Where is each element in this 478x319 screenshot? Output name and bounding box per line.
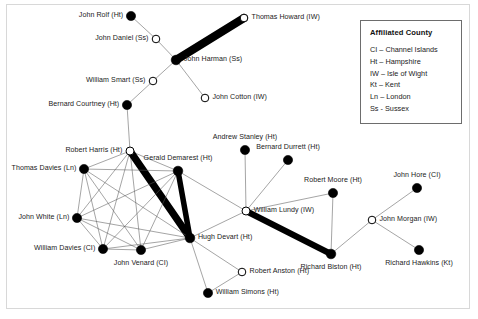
graph-node[interactable] [98, 244, 107, 253]
node-label: Thomas Davies (Ln) [12, 165, 77, 172]
graph-edge [84, 169, 178, 171]
graph-edge [176, 60, 205, 98]
node-label: Bernard Durrett (Ht) [256, 144, 320, 151]
graph-edge [84, 169, 103, 249]
graph-node[interactable] [368, 216, 376, 224]
graph-node[interactable] [126, 11, 135, 20]
graph-edge [176, 18, 244, 60]
graph-node[interactable] [328, 188, 337, 197]
node-label: Bernard Courtney (Ht) [48, 101, 119, 108]
node-label: William Smart (Ss) [86, 77, 146, 84]
node-label: Andrew Stanley (Ht) [213, 134, 277, 141]
node-label: Hugh Devart (Ht) [198, 234, 252, 241]
graph-node[interactable] [152, 35, 160, 43]
graph-node[interactable] [72, 213, 81, 222]
graph-node[interactable] [203, 288, 212, 297]
graph-edge [127, 81, 153, 105]
graph-edge [103, 151, 130, 249]
node-label: Richard Biston (Ht) [301, 264, 362, 271]
legend-entry: Ss - Sussex [370, 103, 453, 115]
graph-edge [190, 238, 242, 272]
graph-edge [246, 211, 331, 254]
node-label: Gerald Demarest (Ht) [144, 155, 213, 162]
graph-edge [141, 238, 190, 250]
graph-node[interactable] [185, 233, 195, 243]
graph-edge [77, 218, 190, 238]
legend-entry: Kt – Kent [370, 79, 453, 91]
node-label: John Venard (CI) [114, 260, 168, 267]
graph-edge [178, 171, 246, 211]
node-label: Robert Harris (Ht) [65, 147, 122, 154]
graph-node[interactable] [122, 100, 131, 109]
graph-node[interactable] [242, 207, 250, 215]
node-label: Richard Hawkins (Kt) [385, 260, 453, 267]
node-label: John Rolf (Ht) [79, 12, 123, 19]
legend-entry: Ln – London [370, 91, 453, 103]
node-label: John Morgan (IW) [380, 216, 438, 223]
node-label: Robert Moore (Ht) [304, 177, 362, 184]
legend-entry: CI – Channel Islands [370, 44, 453, 56]
graph-node[interactable] [149, 77, 157, 85]
graph-node[interactable] [326, 249, 336, 259]
graph-edge [331, 193, 333, 254]
graph-node[interactable] [136, 245, 145, 254]
graph-edge [245, 150, 246, 211]
legend-title: Affiliated County [370, 28, 453, 37]
node-label: John White (Ln) [18, 214, 69, 221]
node-label: John Harman (Ss) [184, 56, 242, 63]
legend-box: Affiliated County CI – Channel IslandsHt… [360, 20, 462, 124]
node-label: Thomas Howard (IW) [252, 14, 320, 21]
graph-edge [103, 249, 141, 250]
graph-node[interactable] [240, 14, 248, 22]
graph-edge [190, 238, 208, 293]
graph-edge [372, 220, 419, 250]
graph-node[interactable] [201, 94, 209, 102]
graph-edge [103, 238, 190, 249]
legend-entry-list: CI – Channel IslandsHt – HampshireIW – I… [370, 44, 453, 115]
graph-edge [84, 169, 141, 250]
graph-node[interactable] [238, 268, 246, 276]
node-label: William Lundy (IW) [254, 207, 314, 214]
graph-node[interactable] [412, 183, 421, 192]
node-label: John Hore (CI) [393, 172, 440, 179]
node-label: John Cotton (IW) [213, 94, 267, 101]
graph-node[interactable] [173, 166, 183, 176]
legend-entry: Ht – Hampshire [370, 56, 453, 68]
graph-node[interactable] [126, 147, 134, 155]
node-label: William Davies (CI) [34, 245, 95, 252]
graph-edge [331, 220, 372, 254]
graph-edge [77, 151, 130, 218]
graph-node[interactable] [283, 155, 292, 164]
graph-node[interactable] [414, 245, 423, 254]
graph-node[interactable] [240, 145, 249, 154]
network-diagram-canvas: John Rolf (Ht)Thomas Howard (IW)John Dan… [0, 0, 478, 319]
node-label: John Daniel (Ss) [95, 35, 148, 42]
node-label: William Simons (Ht) [216, 289, 279, 296]
node-label: Robert Anston (Ht) [250, 268, 310, 275]
graph-node[interactable] [79, 164, 88, 173]
graph-edge [127, 105, 130, 151]
graph-node[interactable] [171, 55, 181, 65]
legend-entry: IW – Isle of Wight [370, 68, 453, 80]
